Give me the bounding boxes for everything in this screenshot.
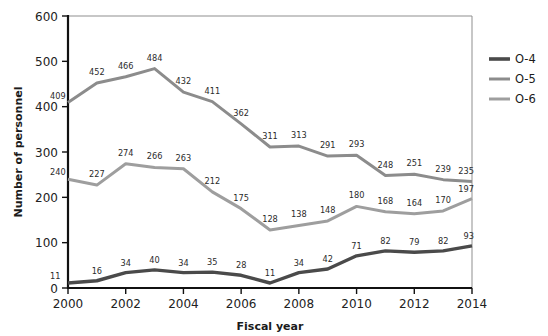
x-tick-label: 2014 [457, 297, 488, 311]
y-tick-label: 500 [35, 55, 58, 69]
data-label: 93 [464, 231, 474, 241]
data-label: 175 [233, 193, 249, 203]
x-tick-label: 2010 [341, 297, 372, 311]
x-tick-group: 20002002200420062008201020122014 [53, 288, 488, 311]
data-label: 362 [233, 108, 249, 118]
chart-canvas: 0100200300400500600 20002002200420062008… [0, 0, 548, 336]
x-axis-title: Fiscal year [237, 320, 304, 333]
data-label: 227 [89, 169, 105, 179]
data-label: 248 [378, 160, 394, 170]
data-label: 197 [458, 184, 474, 194]
data-label: 313 [291, 130, 307, 140]
data-label: 266 [147, 151, 163, 161]
data-label: 11 [265, 268, 275, 278]
data-label: 82 [380, 236, 390, 246]
data-label: 466 [118, 61, 134, 71]
line-chart: 0100200300400500600 20002002200420062008… [0, 0, 548, 336]
data-label: 34 [120, 258, 130, 268]
data-label: 484 [147, 53, 163, 63]
data-label: 291 [320, 140, 336, 150]
data-label: 40 [149, 255, 159, 265]
data-label: 239 [435, 164, 451, 174]
x-tick-label: 2004 [168, 297, 199, 311]
data-label: 28 [236, 260, 246, 270]
data-label: 168 [378, 196, 394, 206]
x-tick-label: 2008 [284, 297, 315, 311]
data-label: 164 [406, 198, 422, 208]
data-label: 293 [349, 139, 365, 149]
data-label: 263 [176, 153, 192, 163]
data-label: 35 [207, 257, 217, 267]
data-label: 411 [204, 86, 220, 96]
x-tick-label: 2002 [110, 297, 141, 311]
data-label: 16 [92, 266, 102, 276]
data-label: 71 [351, 241, 361, 251]
data-label: 128 [262, 214, 278, 224]
data-label: 409 [50, 91, 66, 101]
data-label: 212 [204, 176, 220, 186]
y-tick-label: 0 [50, 282, 58, 296]
y-tick-label: 200 [35, 191, 58, 205]
data-label: 235 [458, 166, 474, 176]
data-label: 170 [435, 195, 451, 205]
data-label-group: 1116344034352811344271827982934094524664… [50, 53, 474, 281]
legend-label-o-6: O-6 [515, 92, 536, 106]
data-label: 138 [291, 209, 307, 219]
legend-label-o-5: O-5 [515, 72, 536, 86]
data-label: 148 [320, 205, 336, 215]
data-label: 311 [262, 131, 278, 141]
x-tick-label: 2012 [399, 297, 430, 311]
data-label: 452 [89, 67, 105, 77]
y-axis-title: Number of personnel [12, 86, 25, 217]
legend-label-o-4: O-4 [515, 52, 536, 66]
data-label: 251 [406, 158, 422, 168]
data-label: 79 [409, 237, 419, 247]
data-label: 82 [438, 236, 448, 246]
data-label: 432 [176, 76, 192, 86]
data-label: 180 [349, 190, 365, 200]
y-tick-label: 100 [35, 236, 58, 250]
data-label: 11 [50, 271, 60, 281]
data-label: 34 [178, 258, 188, 268]
series-group [68, 69, 472, 283]
x-tick-label: 2000 [53, 297, 84, 311]
y-tick-group: 0100200300400500600 [35, 10, 68, 296]
data-label: 240 [50, 167, 66, 177]
data-label: 274 [118, 148, 134, 158]
y-tick-label: 600 [35, 10, 58, 24]
x-tick-label: 2006 [226, 297, 257, 311]
data-label: 34 [294, 258, 304, 268]
y-tick-label: 400 [35, 100, 58, 114]
y-tick-label: 300 [35, 146, 58, 160]
chart-legend: O-4O-5O-6 [489, 52, 536, 106]
data-label: 42 [322, 254, 332, 264]
